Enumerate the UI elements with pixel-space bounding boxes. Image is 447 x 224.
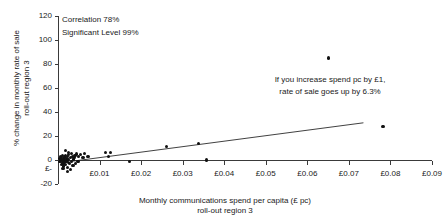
data-point [381,125,384,128]
data-point [61,167,64,170]
data-point [66,170,69,173]
data-point [76,160,79,163]
data-point [81,156,84,159]
data-point [327,56,330,59]
data-point [128,160,131,163]
x-axis-title-line-1: Monthly communications spend per capita … [60,196,390,206]
data-point [86,155,89,158]
data-point [109,151,112,154]
x-axis-title: Monthly communications spend per capita … [60,196,390,216]
data-point [73,154,76,157]
x-axis-title-line-2: roll-out region 3 [60,206,390,216]
data-point [197,142,200,145]
